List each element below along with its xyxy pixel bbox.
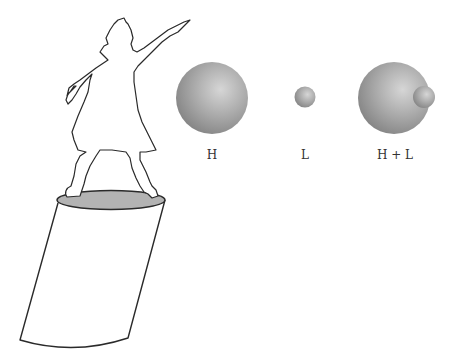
- pedestal: [20, 191, 165, 348]
- statue-figure: [66, 18, 190, 198]
- label-l: L: [301, 148, 309, 162]
- label-h-plus-l: H + L: [377, 148, 413, 162]
- sphere-h: [176, 62, 248, 134]
- sphere-h-plus-l: [358, 62, 435, 134]
- diagram-canvas: [0, 0, 453, 362]
- pedestal-body: [20, 200, 165, 348]
- sphere-l: [295, 87, 316, 108]
- sphere-hl-small: [413, 86, 435, 108]
- label-h: H: [207, 148, 217, 162]
